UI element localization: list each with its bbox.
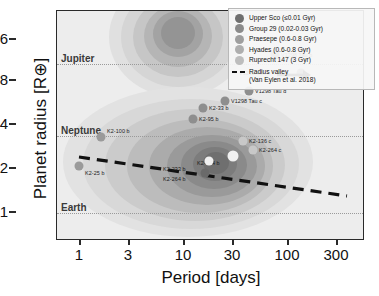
- legend: Upper Sco (≤0.01 Gyr) Group 29 (0.02-0.0…: [228, 8, 375, 90]
- legend-swatch-icon: [235, 14, 244, 23]
- data-point: [75, 162, 84, 171]
- point-label: K2-264 b: [163, 176, 186, 182]
- legend-label: Upper Sco (≤0.01 Gyr): [249, 14, 315, 22]
- point-label: K2-25 b: [85, 170, 105, 176]
- point-label: K2-264 c: [259, 147, 281, 153]
- data-point: [205, 157, 214, 166]
- legend-label: Praesepe (0.6-0.8 Gyr): [249, 35, 316, 43]
- legend-item-ruprecht-147[interactable]: Ruprecht 147 (3 Gyr): [233, 56, 370, 65]
- dashed-line-icon: [235, 68, 244, 77]
- point-label: K2-136 c: [249, 138, 271, 144]
- legend-citation: (Van Eylen et al. 2018): [249, 76, 316, 84]
- point-label: V1298 Tau c: [231, 98, 262, 104]
- point-label: K2-233 b: [163, 166, 186, 172]
- y-tick-mark: [9, 211, 16, 213]
- legend-item-group-29[interactable]: Group 29 (0.02-0.03 Gyr): [233, 24, 370, 33]
- data-point: [97, 133, 106, 142]
- y-axis-title: Planet radius [R⊕]: [30, 29, 51, 229]
- point-label: K2-33 b: [209, 105, 229, 111]
- legend-item-radius-valley[interactable]: Radius valley (Van Eylen et al. 2018): [233, 68, 370, 84]
- data-point: [201, 169, 210, 178]
- legend-swatch-icon: [235, 24, 244, 33]
- y-tick-mark: [9, 167, 16, 169]
- figure: Planet radius [R⊕] Period [days] 16 8 4 …: [0, 0, 379, 296]
- point-label: K2-95 b: [199, 116, 219, 122]
- legend-item-upper-sco[interactable]: Upper Sco (≤0.01 Gyr): [233, 14, 370, 23]
- y-tick-mark: [9, 79, 16, 81]
- legend-label: Radius valley: [249, 68, 316, 76]
- legend-swatch-icon: [235, 56, 244, 65]
- y-tick-mark: [9, 123, 16, 125]
- data-point: [239, 137, 248, 146]
- legend-label: Ruprecht 147 (3 Gyr): [249, 56, 311, 64]
- legend-item-praesepe[interactable]: Praesepe (0.6-0.8 Gyr): [233, 35, 370, 44]
- legend-swatch-icon: [235, 45, 244, 54]
- legend-label: Group 29 (0.02-0.03 Gyr): [249, 25, 323, 33]
- data-point: [189, 115, 198, 124]
- legend-item-hyades[interactable]: Hyades (0.6-0.8 Gyr): [233, 45, 370, 54]
- data-point: [228, 151, 239, 162]
- data-point: [249, 146, 258, 155]
- y-tick-mark: [9, 38, 16, 40]
- data-point: [199, 104, 208, 113]
- point-label: K2-100 b: [107, 128, 130, 134]
- legend-label: Hyades (0.6-0.8 Gyr): [249, 46, 311, 54]
- x-axis-title: Period [days]: [52, 268, 370, 288]
- legend-swatch-icon: [235, 35, 244, 44]
